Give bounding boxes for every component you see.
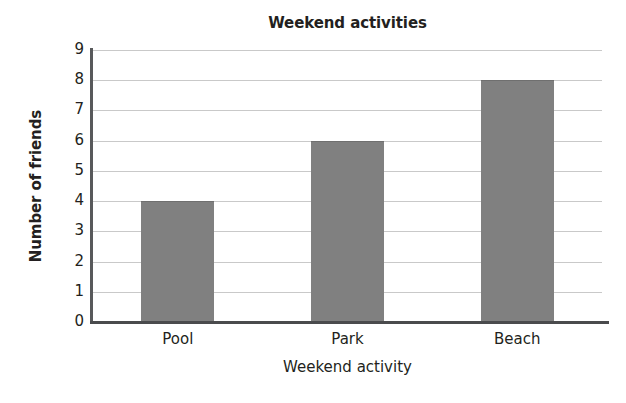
gridline [93, 50, 602, 51]
y-axis-tick-label: 7 [60, 102, 84, 117]
x-axis-tick-label: Pool [118, 330, 238, 348]
x-axis-line [90, 321, 609, 324]
chart-title: Weekend activities [93, 14, 602, 32]
y-axis-tick-label: 3 [60, 223, 84, 238]
y-axis-tick-label: 9 [60, 42, 84, 57]
y-axis-title-container: Number of friends [22, 50, 50, 322]
plot-area [93, 50, 602, 322]
bar [311, 141, 384, 322]
y-axis-tick-label: 4 [60, 193, 84, 208]
y-axis-tick-label: 8 [60, 72, 84, 87]
x-axis-title: Weekend activity [93, 358, 602, 376]
y-axis-tick-label: 1 [60, 284, 84, 299]
y-axis-tick-label: 0 [60, 314, 84, 329]
bar [481, 80, 554, 322]
x-axis-tick-label: Park [288, 330, 408, 348]
bar-chart: Weekend activities Number of friends 012… [0, 0, 626, 403]
y-axis-line [90, 48, 93, 324]
y-axis-tick-label: 2 [60, 254, 84, 269]
bar [141, 201, 214, 322]
y-axis-title: Number of friends [27, 110, 45, 262]
y-axis-tick-label: 6 [60, 133, 84, 148]
y-axis-tick-label: 5 [60, 163, 84, 178]
x-axis-tick-label: Beach [457, 330, 577, 348]
